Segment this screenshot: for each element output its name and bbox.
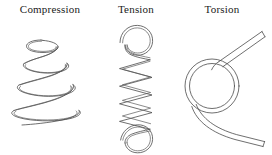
panel-label-tension: Tension xyxy=(100,3,172,16)
panel-compression: Compression xyxy=(0,0,100,155)
spring-types-diagram: Compression xyxy=(0,0,272,155)
panel-tension: Tension xyxy=(100,0,172,155)
torsion-spring-icon xyxy=(172,18,272,155)
panel-label-torsion: Torsion xyxy=(172,3,272,16)
panel-torsion: Torsion xyxy=(172,0,272,155)
panel-label-compression: Compression xyxy=(0,3,100,16)
extension-spring-with-hooks-icon xyxy=(100,18,172,155)
conical-compression-spring-icon xyxy=(0,18,100,155)
